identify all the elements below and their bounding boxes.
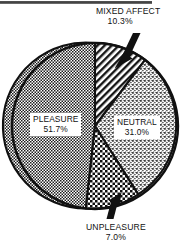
label-pleasure-value: 51.7% [44, 124, 68, 134]
label-unpleasure-title: UNPLEASURE [86, 222, 146, 232]
label-neutral: NEUTRAL 31.0% [114, 116, 160, 139]
label-pleasure: PLEASURE 51.7% [30, 113, 81, 136]
label-unpleasure: UNPLEASURE 7.0% [86, 222, 146, 242]
pie-chart-graphic [0, 0, 188, 251]
label-neutral-value: 31.0% [125, 127, 149, 137]
label-pleasure-title: PLEASURE [33, 114, 78, 124]
label-neutral-title: NEUTRAL [117, 117, 157, 127]
label-mixed-affect: MIXED AFFECT 10.3% [96, 6, 160, 26]
label-mixed-affect-title: MIXED AFFECT [96, 6, 160, 16]
label-unpleasure-value: 7.0% [86, 232, 146, 242]
chart-canvas: MIXED AFFECT 10.3% UNPLEASURE 7.0% PLEAS… [0, 0, 188, 251]
label-mixed-affect-value: 10.3% [80, 16, 160, 26]
